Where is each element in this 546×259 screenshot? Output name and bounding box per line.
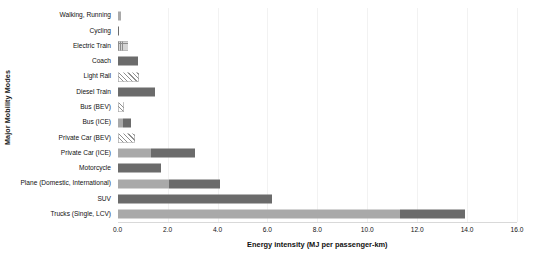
x-tick-label: 6.0	[263, 224, 272, 235]
category-label: Diesel Train	[14, 84, 114, 99]
x-tick-label: 12.0	[411, 224, 424, 235]
bar-segment	[118, 133, 135, 142]
category-label: SUV	[14, 191, 114, 206]
bar-segment	[118, 103, 124, 112]
y-axis-title-text: Major Mobility Modes	[4, 70, 13, 145]
bar-segment	[118, 149, 151, 158]
x-tick-label: 10.0	[361, 224, 374, 235]
bar	[118, 103, 124, 112]
bar-segment	[118, 88, 155, 97]
bar-row	[118, 130, 517, 145]
x-tick-label: 8.0	[313, 224, 322, 235]
bar-row	[118, 54, 517, 69]
bar-segment	[118, 42, 128, 51]
bar-segment	[118, 195, 273, 204]
bar-segment	[169, 179, 220, 188]
gridline	[517, 8, 518, 222]
x-axis-tick-labels: 0.02.04.06.08.010.012.014.016.0	[0, 224, 546, 236]
bar-segment	[118, 11, 122, 20]
bar	[118, 195, 273, 204]
bar	[118, 57, 138, 66]
category-label: Coach	[14, 54, 114, 69]
bar-row	[118, 191, 517, 206]
bar-row	[118, 146, 517, 161]
bar-row	[118, 39, 517, 54]
category-label: Light Rail	[14, 69, 114, 84]
bar-segment	[118, 72, 139, 81]
bar	[118, 164, 161, 173]
category-label: Walking, Running	[14, 8, 114, 23]
plot-area	[118, 8, 517, 222]
category-label: Bus (BEV)	[14, 100, 114, 115]
bar-segment	[400, 210, 465, 219]
bar-segment	[118, 164, 161, 173]
bar-series	[118, 8, 517, 222]
category-label: Electric Train	[14, 39, 114, 54]
category-label: Motorcycle	[14, 161, 114, 176]
category-label: Private Car (BEV)	[14, 130, 114, 145]
bar	[118, 179, 220, 188]
bar-row	[118, 115, 517, 130]
bar	[118, 210, 465, 219]
bar	[118, 118, 131, 127]
bar	[118, 133, 135, 142]
bar-row	[118, 207, 517, 222]
bar-segment	[118, 210, 400, 219]
bar	[118, 26, 120, 35]
category-label: Trucks (Single, LCV)	[14, 207, 114, 222]
bar-segment	[118, 26, 120, 35]
bar-segment	[118, 179, 169, 188]
category-label: Cycling	[14, 23, 114, 38]
x-tick-label: 14.0	[461, 224, 474, 235]
bar	[118, 42, 128, 51]
bar-segment	[123, 118, 130, 127]
x-tick-label: 4.0	[213, 224, 222, 235]
bar-segment	[151, 149, 195, 158]
x-axis-line	[118, 222, 517, 223]
bar-row	[118, 100, 517, 115]
bar	[118, 149, 195, 158]
bar-row	[118, 176, 517, 191]
bar	[118, 72, 139, 81]
category-label: Plane (Domestic, International)	[14, 176, 114, 191]
bar-row	[118, 23, 517, 38]
x-axis-title: Energy intensity (MJ per passenger-km)	[118, 240, 517, 249]
bar-row	[118, 161, 517, 176]
bar-row	[118, 69, 517, 84]
category-axis-labels: Walking, RunningCyclingElectric TrainCoa…	[14, 8, 114, 222]
bar	[118, 11, 122, 20]
bar-segment	[118, 57, 138, 66]
x-tick-label: 2.0	[163, 224, 172, 235]
category-label: Private Car (ICE)	[14, 146, 114, 161]
bar	[118, 88, 155, 97]
x-tick-label: 0.0	[113, 224, 122, 235]
bar-row	[118, 84, 517, 99]
category-label: Bus (ICE)	[14, 115, 114, 130]
bar-row	[118, 8, 517, 23]
x-tick-label: 16.0	[511, 224, 524, 235]
energy-intensity-bar-chart: Major Mobility Modes Walking, RunningCyc…	[0, 0, 546, 259]
